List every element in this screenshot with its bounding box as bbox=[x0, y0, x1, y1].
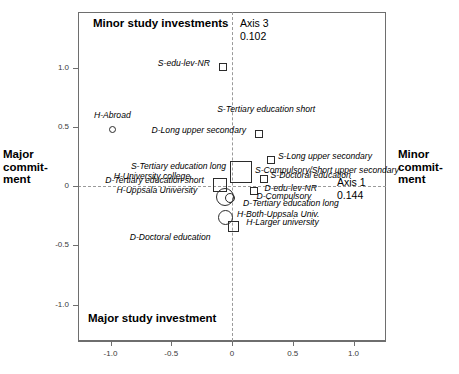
caption-minor-commitment: Minor commit- ment bbox=[398, 148, 458, 186]
caption-minor-commitment-line3: ment bbox=[398, 173, 458, 186]
data-point-label: H-Uppsala University bbox=[117, 185, 198, 195]
axis3-value: 0.102 bbox=[240, 30, 269, 43]
data-point-label: D-Tertiary education long bbox=[243, 198, 339, 208]
caption-minor-study-investments: Minor study investments bbox=[93, 17, 228, 29]
data-point-label: S-Tertiary education long bbox=[131, 161, 226, 171]
y-tick-label: 1.0 bbox=[33, 63, 69, 72]
x-tick bbox=[111, 341, 112, 346]
data-point-label: D-Long upper secondary bbox=[152, 125, 247, 135]
x-tick bbox=[293, 341, 294, 346]
caption-major-commitment-line1: Major bbox=[3, 148, 73, 161]
data-point-marker bbox=[219, 63, 227, 71]
y-tick bbox=[73, 127, 78, 128]
axis1-value: 0.144 bbox=[337, 189, 366, 202]
y-tick bbox=[73, 305, 78, 306]
x-tick-label: -0.5 bbox=[151, 349, 191, 358]
data-point-marker bbox=[267, 156, 275, 164]
axis3-name: Axis 3 bbox=[240, 17, 269, 30]
caption-minor-commitment-line2: commit- bbox=[398, 161, 458, 174]
caption-minor-commitment-line1: Minor bbox=[398, 148, 458, 161]
x-tick-label: -1.0 bbox=[91, 349, 131, 358]
y-tick bbox=[73, 68, 78, 69]
caption-major-commitment-line2: commit- bbox=[3, 161, 73, 174]
caption-major-commitment-line3: ment bbox=[3, 173, 73, 186]
x-tick-label: 0.5 bbox=[273, 349, 313, 358]
x-tick bbox=[232, 341, 233, 346]
correspondence-analysis-figure: -1.0-0.500.51.01.00.50-0.5-1.0 S-edu-lev… bbox=[0, 0, 459, 374]
data-point-marker bbox=[109, 126, 116, 133]
caption-major-study-investment: Major study investment bbox=[88, 312, 216, 324]
y-tick-label: -0.5 bbox=[33, 240, 69, 249]
y-tick-label: 0.5 bbox=[33, 122, 69, 131]
data-point-label: H-Both-Uppsala Univ. bbox=[237, 209, 319, 219]
x-tick-label: 0 bbox=[212, 349, 252, 358]
data-point-label: H-University college bbox=[114, 171, 190, 181]
y-axis-spine bbox=[78, 12, 79, 341]
axis1-annotation: Axis 1 0.144 bbox=[337, 176, 366, 202]
axis3-annotation: Axis 3 0.102 bbox=[240, 17, 269, 43]
data-point-label: H-Abroad bbox=[94, 110, 131, 120]
data-point-marker bbox=[255, 130, 263, 138]
data-point-label: S-edu-lev-NR bbox=[158, 58, 210, 68]
y-tick bbox=[73, 186, 78, 187]
x-tick-label: 1.0 bbox=[334, 349, 374, 358]
data-point-label: S-Long upper secondary bbox=[278, 151, 372, 161]
data-point-label: S-Tertiary education short bbox=[217, 104, 315, 114]
y-tick-label: -1.0 bbox=[33, 300, 69, 309]
caption-major-commitment: Major commit- ment bbox=[3, 148, 73, 186]
data-point-marker bbox=[230, 161, 252, 183]
data-point-label: D-Doctoral education bbox=[130, 232, 211, 242]
x-tick bbox=[171, 341, 172, 346]
x-tick bbox=[354, 341, 355, 346]
y-tick bbox=[73, 245, 78, 246]
axis1-name: Axis 1 bbox=[337, 176, 366, 189]
